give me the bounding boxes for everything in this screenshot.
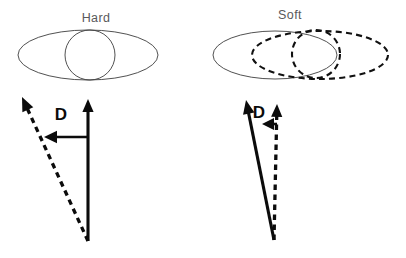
- soft-dashed-vector: [274, 112, 277, 240]
- soft-solid-vector: [248, 109, 274, 240]
- panel-hard: Hard D: [18, 11, 158, 241]
- diagram-root: Hard D Soft: [0, 0, 406, 258]
- hard-solid-vector-arrowhead: [82, 99, 93, 112]
- hard-dashed-vector: [26, 105, 88, 241]
- soft-outer-ellipse: [213, 31, 337, 79]
- hard-outer-ellipse: [18, 30, 158, 80]
- soft-dashed-vector-arrowhead: [271, 104, 282, 117]
- panel-title-hard: Hard: [82, 11, 111, 25]
- panel-soft: Soft D: [213, 8, 388, 240]
- hard-measure-group: D: [44, 105, 88, 143]
- diagram-canvas: Hard D Soft: [0, 0, 406, 258]
- hard-d-measure-arrowhead: [44, 131, 57, 143]
- hard-inner-circle: [65, 30, 115, 80]
- hard-d-label: D: [55, 105, 67, 124]
- panel-title-soft: Soft: [278, 8, 302, 22]
- soft-d-label: D: [253, 103, 265, 122]
